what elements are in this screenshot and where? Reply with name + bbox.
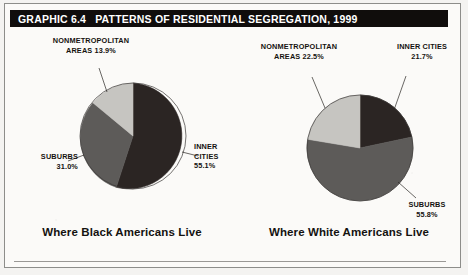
leader-line-nonmetropolitan [99, 68, 107, 92]
pie-svg-black-americans [6, 30, 238, 220]
label-nonmetropolitan-white: NONMETROPOLITAN AREAS 22.5% [242, 42, 356, 61]
label-nonmetropolitan-black: NONMETROPOLITAN AREAS 13.9% [32, 36, 150, 55]
graphic-title-bar: GRAPHIC 6.4 PATTERNS OF RESIDENTIAL SEGR… [10, 10, 448, 27]
label-inner-cities-white: INNER CITIES 21.7% [384, 42, 460, 61]
slice-nonmetropolitan [308, 95, 360, 148]
leader-line-nonmetropolitan [312, 77, 325, 108]
label-nonmetropolitan-black-line1: NONMETROPOLITAN [53, 36, 129, 45]
graphic-title: PATTERNS OF RESIDENTIAL SEGREGATION, 199… [95, 13, 357, 25]
caption-black-americans: Where Black Americans Live [6, 226, 238, 238]
label-nonmetropolitan-white-line2: AREAS 22.5% [242, 52, 356, 62]
graphic-number: GRAPHIC 6.4 [18, 13, 86, 25]
caption-white-americans: Where White Americans Live [236, 226, 462, 238]
label-inner-cities-white-line2: 21.7% [384, 52, 460, 62]
label-nonmetropolitan-black-line2: AREAS 13.9% [32, 46, 150, 56]
label-inner-cities-white-line1: INNER CITIES [397, 42, 447, 51]
label-suburbs-white-line1: SUBURBS [408, 200, 445, 209]
leader-line-inner-cities [394, 76, 406, 110]
label-suburbs-white: SUBURBS 55.8% [394, 200, 460, 219]
graphic-page: GRAPHIC 6.4 PATTERNS OF RESIDENTIAL SEGR… [0, 0, 468, 275]
pie-chart-white-americans: NONMETROPOLITAN AREAS 22.5% INNER CITIES… [236, 30, 462, 240]
leader-line-suburbs [398, 182, 416, 198]
label-suburbs-black-line1: SUBURBS [41, 152, 78, 161]
label-inner-cities-black-line1: INNER [194, 142, 217, 151]
label-suburbs-black: SUBURBS 31.0% [8, 152, 78, 171]
pie-chart-black-americans: NONMETROPOLITAN AREAS 13.9% SUBURBS 31.0… [6, 30, 238, 240]
label-suburbs-black-line2: 31.0% [8, 162, 78, 172]
label-nonmetropolitan-white-line1: NONMETROPOLITAN [261, 42, 337, 51]
label-suburbs-white-line2: 55.8% [394, 210, 460, 220]
bottom-divider [14, 261, 446, 262]
